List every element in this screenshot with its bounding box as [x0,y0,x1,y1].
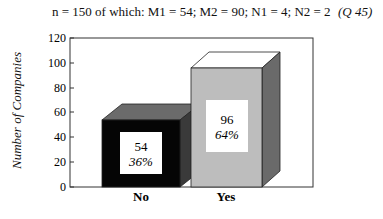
y-tick: 120 [48,31,66,45]
x-category-label: No [133,189,149,204]
y-tick: 60 [54,105,66,119]
x-category-label: Yes [217,189,236,204]
bar-value: 54 [135,139,149,154]
y-tick: 100 [48,56,66,70]
y-tick: 40 [54,130,66,144]
bar-yes: 96 64% [191,52,280,187]
bar-no: 54 36% [102,104,200,187]
bar-percent: 64% [215,127,239,142]
bar-percent: 36% [128,154,153,169]
y-tick: 20 [54,155,66,169]
bar-chart: 0 20 40 60 80 100 120 54 36% 96 64% No Y… [0,0,383,219]
y-tick: 80 [54,81,66,95]
y-tick: 0 [60,180,66,194]
bar-value: 96 [221,112,235,127]
